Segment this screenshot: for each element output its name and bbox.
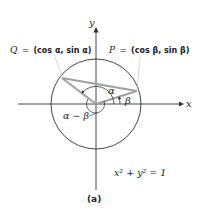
p-leader [137, 57, 140, 89]
alpha-label: α [108, 85, 115, 96]
q-label: Q = (cos α, sin α) [10, 45, 91, 55]
alpha-minus-beta-arc [87, 99, 105, 113]
unit-circle-diagram: y x Q = (cos α, sin α) P = (cos β, sin β… [0, 0, 198, 215]
alpha-minus-beta-label: α − β [63, 110, 89, 121]
circle-equation: x² + y² = 1 [114, 167, 166, 178]
figure-caption: (a) [87, 194, 101, 204]
q-leader [55, 57, 62, 76]
chord-qp [62, 78, 137, 91]
beta-label: β [124, 95, 131, 106]
x-axis-label: x [186, 98, 192, 109]
beta-arc [119, 97, 120, 104]
y-axis-label: y [88, 17, 95, 28]
p-label: P = (cos β, sin β) [108, 45, 189, 55]
radius-op [96, 91, 137, 104]
